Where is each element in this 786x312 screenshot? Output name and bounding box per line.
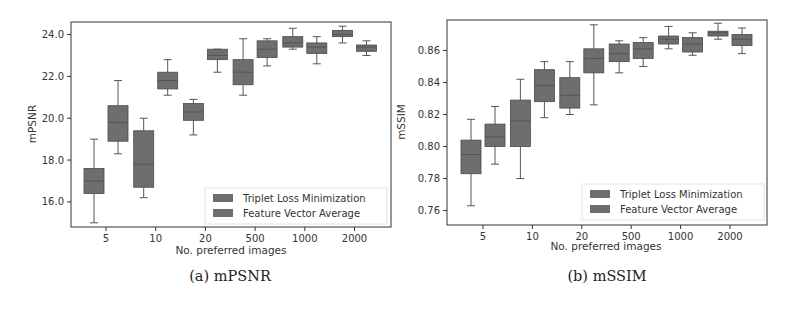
x-tick-label: 2000 [717, 231, 742, 242]
x-tick-label: 500 [246, 233, 265, 244]
box-feature-vector-average-5 [108, 81, 128, 154]
box-series [461, 23, 752, 206]
box [357, 45, 377, 51]
legend-swatch-feature-vector [590, 205, 610, 213]
x-tick-label: 1000 [292, 233, 317, 244]
box-triplet-loss-minimization-20 [183, 99, 203, 135]
box [108, 106, 128, 142]
caption-left: (a) mPSNR [189, 268, 272, 284]
x-tick-label: 5 [480, 231, 486, 242]
x-tick-label: 20 [199, 233, 212, 244]
y-tick-label: 22.0 [42, 71, 64, 82]
box-triplet-loss-minimization-5 [84, 139, 104, 223]
box-triplet-loss-minimization-500 [233, 39, 253, 95]
y-axis: 0.760.780.800.820.840.86 [418, 45, 447, 216]
legend-label-feature-vector: Feature Vector Average [243, 208, 360, 219]
x-axis-label: No. preferred images [551, 240, 662, 252]
figure: 16.018.020.022.024.0 5102050010002000 mP… [0, 0, 786, 312]
x-axis-label: No. preferred images [176, 244, 287, 256]
y-axis-label: mPSNR [26, 105, 38, 143]
box-triplet-loss-minimization-20 [560, 62, 580, 115]
legend-label-triplet: Triplet Loss Minimization [242, 193, 366, 204]
mssim-boxplot: 0.760.780.800.820.840.86 510205001000200… [395, 20, 767, 252]
box [207, 49, 227, 59]
y-tick-label: 0.80 [418, 141, 440, 152]
box-triplet-loss-minimization-2000 [708, 23, 728, 39]
box [708, 31, 728, 36]
x-tick-label: 10 [526, 231, 539, 242]
legend-swatch-triplet [213, 194, 233, 202]
box [683, 38, 703, 52]
box-triplet-loss-minimization-1000 [659, 26, 679, 48]
y-tick-label: 0.84 [418, 77, 440, 88]
box-feature-vector-average-500 [633, 38, 653, 67]
box-triplet-loss-minimization-2000 [333, 26, 353, 43]
box [633, 42, 653, 58]
y-tick-label: 0.76 [418, 205, 440, 216]
box [134, 131, 154, 187]
y-tick-label: 0.78 [418, 173, 440, 184]
box [732, 34, 752, 45]
y-tick-label: 0.82 [418, 109, 440, 120]
box-feature-vector-average-500 [257, 39, 277, 66]
box [283, 37, 303, 47]
x-tick-label: 2000 [342, 233, 367, 244]
x-tick-label: 1000 [668, 231, 693, 242]
legend-label-triplet: Triplet Loss Minimization [619, 189, 743, 200]
box [510, 100, 530, 146]
y-tick-label: 16.0 [42, 196, 64, 207]
x-tick-label: 10 [149, 233, 162, 244]
caption-right: (b) mSSIM [567, 268, 646, 284]
box [609, 44, 629, 62]
legend-swatch-feature-vector [213, 209, 233, 217]
x-tick-label: 5 [103, 233, 109, 244]
y-tick-label: 24.0 [42, 29, 64, 40]
box [333, 30, 353, 36]
box-feature-vector-average-10 [534, 62, 554, 118]
y-axis: 16.018.020.022.024.0 [42, 29, 71, 207]
legend-label-feature-vector: Feature Vector Average [620, 204, 737, 215]
x-axis: 5102050010002000 [103, 227, 367, 244]
box [659, 36, 679, 44]
box-feature-vector-average-1000 [307, 37, 327, 64]
y-axis-label: mSSIM [395, 104, 407, 140]
box [461, 140, 481, 174]
box [307, 43, 327, 53]
legend: Triplet Loss Minimization Feature Vector… [205, 188, 387, 224]
box [560, 78, 580, 108]
box-feature-vector-average-5 [485, 106, 505, 164]
box-triplet-loss-minimization-10 [510, 79, 530, 178]
box-feature-vector-average-10 [158, 60, 178, 96]
box-triplet-loss-minimization-1000 [283, 28, 303, 49]
box-triplet-loss-minimization-10 [134, 118, 154, 197]
mpsnr-boxplot: 16.018.020.022.024.0 5102050010002000 mP… [26, 22, 391, 256]
box-triplet-loss-minimization-5 [461, 119, 481, 205]
legend-swatch-triplet [590, 190, 610, 198]
box-feature-vector-average-2000 [357, 41, 377, 56]
box-feature-vector-average-2000 [732, 28, 752, 54]
box-triplet-loss-minimization-500 [609, 41, 629, 73]
box [485, 124, 505, 146]
box-feature-vector-average-20 [207, 49, 227, 72]
box-feature-vector-average-1000 [683, 33, 703, 55]
box-feature-vector-average-20 [584, 25, 604, 105]
y-tick-label: 0.86 [418, 45, 440, 56]
y-tick-label: 20.0 [42, 113, 64, 124]
y-tick-label: 18.0 [42, 155, 64, 166]
legend: Triplet Loss Minimization Feature Vector… [582, 184, 764, 220]
box [584, 49, 604, 73]
